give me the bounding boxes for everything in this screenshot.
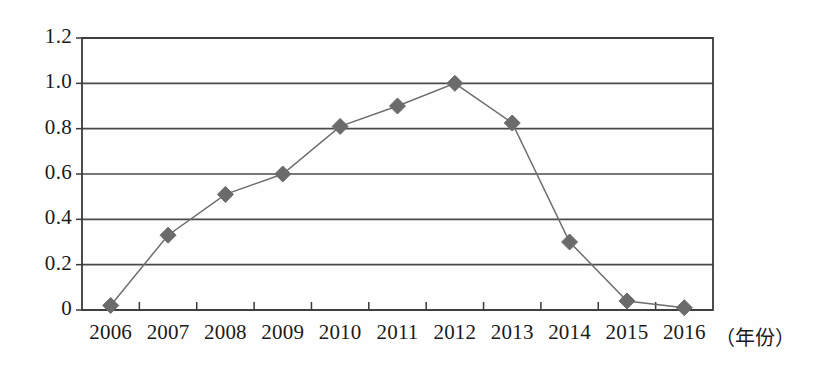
x-axis-tick-label: 2012 — [425, 320, 485, 345]
x-axis-tick-label: 2016 — [654, 320, 714, 345]
data-point-marker — [217, 186, 233, 202]
x-axis-tick-label: 2006 — [81, 320, 141, 345]
y-axis-tick-label: 0.6 — [45, 160, 72, 185]
y-axis-tick-label: 0.2 — [45, 251, 72, 276]
data-point-marker — [676, 300, 692, 316]
x-axis-title: （年份） — [715, 322, 795, 351]
x-axis-tick-label: 2014 — [540, 320, 600, 345]
gridlines — [82, 38, 713, 310]
y-axis-tick-label: 0.4 — [45, 205, 72, 230]
data-point-marker — [447, 75, 463, 91]
chart-canvas — [0, 0, 822, 374]
y-axis-tick-label: 0.8 — [45, 115, 72, 140]
x-axis-tick-label: 2013 — [482, 320, 542, 345]
y-axis-tick-label: 0 — [61, 296, 72, 321]
data-markers — [103, 75, 693, 315]
y-axis-tick-label: 1.0 — [45, 69, 72, 94]
x-axis-tick-label: 2009 — [253, 320, 313, 345]
data-point-marker — [390, 98, 406, 114]
y-axis-tick-label: 1.2 — [45, 24, 72, 49]
data-point-marker — [103, 297, 119, 313]
x-axis-tick-label: 2008 — [195, 320, 255, 345]
x-axis-tick-label: 2007 — [138, 320, 198, 345]
x-axis-tick-label: 2015 — [597, 320, 657, 345]
line-chart: 00.20.40.60.81.01.2 20062007200820092010… — [0, 0, 822, 374]
data-point-marker — [160, 227, 176, 243]
x-axis-tick-label: 2011 — [368, 320, 428, 345]
series-line — [111, 83, 685, 307]
data-line — [111, 83, 685, 307]
x-axis-tick-label: 2010 — [310, 320, 370, 345]
